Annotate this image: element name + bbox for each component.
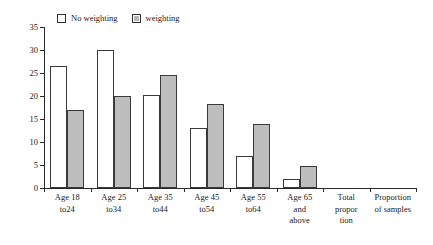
- x-axis-category-label-line: tion: [323, 215, 370, 227]
- bar: [283, 179, 300, 188]
- y-axis-tick-label: 5: [34, 161, 38, 170]
- x-axis-category-label: Age 25to34: [91, 192, 138, 215]
- x-axis-category-label: Age 35to44: [137, 192, 184, 215]
- x-axis-category-label-line: Age 25: [91, 192, 138, 204]
- y-axis-tick-label: 20: [30, 92, 39, 101]
- x-axis-category-label-line: Age 35: [137, 192, 184, 204]
- legend-label-no-weighting: No weighting: [71, 13, 118, 23]
- bar: [97, 50, 114, 188]
- bar-group: [370, 27, 417, 188]
- bar-group: [137, 27, 184, 188]
- x-axis-category-label-line: to64: [230, 204, 277, 216]
- x-axis-tick-mark: [416, 188, 417, 192]
- y-axis-tick-label: 30: [30, 46, 39, 55]
- x-axis-category-label-line: to24: [44, 204, 91, 216]
- bar-group: [44, 27, 91, 188]
- x-axis-category-label-line: Age 18: [44, 192, 91, 204]
- x-axis-category-label-line: above: [277, 215, 324, 227]
- bar: [253, 124, 270, 188]
- bar-group: [277, 27, 324, 188]
- bar-group: [91, 27, 138, 188]
- x-axis-category-label-line: of samples: [370, 204, 417, 216]
- x-axis-category-label-line: Age 65: [277, 192, 324, 204]
- x-axis-category-label-line: propor: [323, 204, 370, 216]
- legend-entry-no-weighting: No weighting: [57, 13, 118, 23]
- bar: [190, 128, 207, 188]
- bar: [114, 96, 131, 188]
- x-axis-category-label-line: to44: [137, 204, 184, 216]
- x-axis-category-label: Proportionof samples: [370, 192, 417, 215]
- x-axis-category-label-line: and: [277, 204, 324, 216]
- legend-swatch-weighting-icon: [132, 14, 141, 23]
- x-axis-category-label: Age 55to64: [230, 192, 277, 215]
- bar: [160, 75, 177, 188]
- legend-label-weighting: weighting: [146, 13, 180, 23]
- legend-swatch-no-weighting-icon: [57, 14, 66, 23]
- x-axis-category-label: Age 18to24: [44, 192, 91, 215]
- bar-group: [323, 27, 370, 188]
- x-axis-category-label-line: Proportion: [370, 192, 417, 204]
- x-axis-category-label-line: to34: [91, 204, 138, 216]
- bar: [300, 166, 317, 188]
- bar: [50, 66, 67, 188]
- bar-group: [230, 27, 277, 188]
- x-axis-category-label-line: Age 55: [230, 192, 277, 204]
- x-axis-category-label: Age 45to54: [184, 192, 231, 215]
- x-axis-category-label: Age 65andabove: [277, 192, 324, 227]
- bar: [207, 104, 224, 188]
- y-axis-tick-label: 15: [30, 115, 39, 124]
- bar-chart: No weighting weighting 05101520253035 Ag…: [0, 0, 433, 245]
- y-axis-tick-label: 0: [34, 184, 38, 193]
- y-axis-tick-label: 10: [30, 138, 39, 147]
- plot-area: 05101520253035: [44, 27, 416, 188]
- bar: [143, 95, 160, 188]
- y-axis-tick-label: 35: [30, 23, 39, 32]
- x-axis-category-label-line: to54: [184, 204, 231, 216]
- y-axis-tick-label: 25: [30, 69, 39, 78]
- x-axis-category-label-line: Total: [323, 192, 370, 204]
- bar: [236, 156, 253, 188]
- bar: [67, 110, 84, 188]
- chart-legend: No weighting weighting: [57, 11, 180, 25]
- x-axis-category-label: Totalproportion: [323, 192, 370, 227]
- x-axis-category-label-line: Age 45: [184, 192, 231, 204]
- bar-group: [184, 27, 231, 188]
- legend-entry-weighting: weighting: [132, 13, 180, 23]
